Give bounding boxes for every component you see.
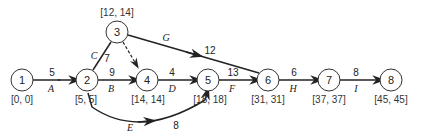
node-6-label: 6 <box>265 74 271 86</box>
edge-A-activity: A <box>47 83 55 94</box>
edge-F-duration: 13 <box>227 67 239 78</box>
edge-C: C 7 <box>91 42 111 70</box>
node-8: 8 [45, 45] <box>374 69 408 105</box>
edge-B: 9 B <box>98 67 135 94</box>
node-1-times: [0, 0] <box>11 94 33 105</box>
edge-dummy <box>123 42 136 64</box>
node-3-label: 3 <box>114 26 120 38</box>
edge-A: 5 A <box>33 67 75 94</box>
node-5: 5 [18, 18] <box>193 69 227 105</box>
edge-G-activity: G <box>162 32 169 43</box>
edge-I-activity: I <box>353 83 358 94</box>
node-6: 6 [31, 31] <box>251 69 285 105</box>
node-4-label: 4 <box>144 74 150 86</box>
edge-I-duration: 8 <box>353 67 359 78</box>
network-diagram: 5 A 9 B C 7 4 D E 8 13 F G 12 <box>0 0 422 139</box>
node-7: 7 [37, 37] <box>312 69 346 105</box>
edge-H-activity: H <box>288 83 297 94</box>
node-8-times: [45, 45] <box>374 94 408 105</box>
node-4-times: [14, 14] <box>131 94 165 105</box>
node-7-label: 7 <box>326 74 332 86</box>
node-1: 1 [0, 0] <box>11 69 33 105</box>
edge-E-activity: E <box>126 122 133 133</box>
node-3-times: [12, 14] <box>100 7 134 18</box>
node-7-times: [37, 37] <box>312 94 346 105</box>
node-1-label: 1 <box>19 74 25 86</box>
edge-C-activity: C <box>91 50 98 61</box>
edge-A-duration: 5 <box>49 67 55 78</box>
edge-D-duration: 4 <box>169 67 175 78</box>
node-6-times: [31, 31] <box>251 94 285 105</box>
edge-B-activity: B <box>108 83 114 94</box>
edge-B-duration: 9 <box>109 67 115 78</box>
node-5-label: 5 <box>205 74 211 86</box>
edge-G: G 12 <box>128 32 259 73</box>
edge-G-arrow-icon <box>186 52 197 55</box>
edge-H: 6 H <box>279 67 317 94</box>
node-5-times: [18, 18] <box>193 94 227 105</box>
node-2-label: 2 <box>84 74 90 86</box>
edge-G-duration: 12 <box>204 45 216 56</box>
node-3: 3 [12, 14] <box>100 7 134 43</box>
node-4: 4 [14, 14] <box>131 69 165 105</box>
edge-F-activity: F <box>228 83 236 94</box>
edge-E-duration: 8 <box>173 120 179 131</box>
edge-I: 8 I <box>340 67 379 94</box>
edge-D-activity: D <box>167 83 176 94</box>
edge-E-arrow-icon <box>138 121 150 122</box>
edge-D: 4 D <box>158 67 196 94</box>
node-8-label: 8 <box>388 74 394 86</box>
node-2: 2 [5, 5] <box>75 69 98 105</box>
edge-C-duration: 7 <box>104 53 110 64</box>
edge-H-duration: 6 <box>291 67 297 78</box>
dummy-arrow-icon <box>123 42 136 64</box>
node-2-times: [5, 5] <box>75 94 97 105</box>
